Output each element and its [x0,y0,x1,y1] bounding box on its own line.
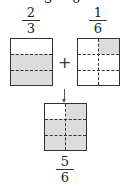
shaded-region [66,104,86,119]
dashed-divider [11,70,52,71]
dashed-divider [98,39,99,85]
left-fraction-box [10,38,53,86]
shaded-region [99,39,119,54]
cropped-text: 3 [44,0,52,6]
fraction-one-sixth: 1 6 [86,6,110,35]
fraction-two-thirds: 2 3 [19,6,43,35]
denominator: 3 [19,22,43,35]
dashed-divider [65,104,66,150]
down-arrow-icon [64,89,65,99]
fraction-five-sixths: 5 6 [53,155,77,184]
numerator: 2 [19,6,43,19]
dashed-divider [11,54,52,55]
numerator: 1 [86,6,110,19]
result-fraction-box [44,103,87,151]
right-fraction-box [77,38,120,86]
denominator: 6 [86,22,110,35]
plus-sign: + [58,55,71,71]
cropped-text: 6 [72,0,80,6]
numerator: 5 [53,155,77,168]
denominator: 6 [53,171,77,184]
